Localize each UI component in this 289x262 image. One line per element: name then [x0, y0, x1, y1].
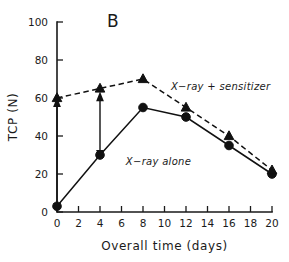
- series-label-1: X−ray alone: [125, 156, 191, 167]
- y-tick-label: 40: [35, 130, 48, 142]
- x-tick-label: 16: [222, 217, 236, 229]
- x-tick-label: 4: [97, 217, 104, 229]
- panel-label: B: [107, 11, 119, 31]
- data-point-series1: [225, 141, 234, 150]
- x-tick-label: 0: [54, 217, 61, 229]
- x-axis-title: Overall time (days): [101, 239, 228, 253]
- x-tick-label: 14: [201, 217, 215, 229]
- x-tick-label: 20: [265, 217, 278, 229]
- data-point-series2: [181, 102, 191, 111]
- y-tick-label: 20: [35, 168, 48, 180]
- x-tick-label: 18: [244, 217, 257, 229]
- data-series: [52, 74, 277, 211]
- x-tick-label: 8: [140, 217, 147, 229]
- data-point-series2: [138, 74, 148, 83]
- axis-lines: [57, 22, 272, 212]
- y-tick-label: 80: [35, 54, 48, 66]
- series-label-2: X−ray + sensitizer: [170, 81, 271, 92]
- y-tick-label: 100: [28, 16, 48, 28]
- chart-canvas: 02040608010002468101214161820 X−ray alon…: [0, 0, 289, 262]
- data-point-series1: [139, 103, 148, 112]
- data-point-series1: [182, 113, 191, 122]
- y-tick-label: 0: [41, 206, 48, 218]
- y-tick-label: 60: [35, 92, 48, 104]
- data-point-series2: [224, 131, 234, 140]
- y-axis-title: TCP (N): [6, 93, 20, 143]
- x-tick-label: 12: [179, 217, 192, 229]
- x-tick-label: 10: [158, 217, 171, 229]
- data-point-series2: [267, 165, 277, 174]
- x-tick-label: 2: [75, 217, 82, 229]
- x-tick-label: 6: [118, 217, 125, 229]
- gain-arrow-head-up: [96, 92, 104, 102]
- figure-panel-b: 02040608010002468101214161820 X−ray alon…: [0, 0, 289, 262]
